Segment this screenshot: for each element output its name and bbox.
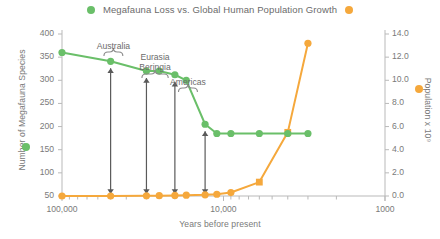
population-marker-3 [156,192,163,199]
annotation-arrow-1 [143,78,149,194]
y-tick-right-14.0: 14.0 [392,28,428,38]
megafauna-marker-11 [304,130,311,137]
annotation-label-2: Americas [148,77,228,87]
y-tick-right-8.0: 8.0 [392,97,428,107]
megafauna-marker-9 [256,130,263,137]
population-marker-0 [58,192,65,199]
population-marker-1 [107,192,114,199]
population-marker-8 [227,189,234,196]
y-tick-right-12.0: 12.0 [392,51,428,61]
population-marker-9 [256,179,263,186]
population-marker-5 [183,192,190,199]
megafauna-marker-0 [58,49,65,56]
y-tick-left-150: 150 [20,144,54,154]
y-tick-left-50: 50 [20,190,54,200]
y-tick-left-200: 200 [20,121,54,131]
annotation-label-1: EurasiaBeringia [115,52,195,72]
y-tick-left-100: 100 [20,167,54,177]
population-marker-11 [304,40,311,47]
population-marker-7 [213,191,220,198]
y-tick-right-0.0: 0.0 [392,190,428,200]
population-marker-4 [171,192,178,199]
y-tick-left-400: 400 [20,28,54,38]
annotation-arrow-2 [172,82,178,194]
y-tick-left-300: 300 [20,74,54,84]
annotation-arrow-3 [202,131,208,194]
x-tick-100,000: 100,000 [32,204,92,214]
megafauna-marker-10 [284,130,291,137]
chart-container: Megafauna Loss vs. Global Human Populati… [0,0,440,239]
y-tick-right-2.0: 2.0 [392,167,428,177]
y-tick-right-6.0: 6.0 [392,121,428,131]
x-tick-10,000: 10,000 [194,204,254,214]
megafauna-marker-8 [227,130,234,137]
x-tick-1000: 1000 [355,204,415,214]
y-tick-left-350: 350 [20,51,54,61]
megafauna-marker-6 [201,121,208,128]
y-tick-right-10.0: 10.0 [392,74,428,84]
y-tick-left-250: 250 [20,97,54,107]
megafauna-marker-1 [107,58,114,65]
population-marker-2 [143,192,150,199]
population-marker-6 [201,191,208,198]
annotation-label-0: Australia [73,41,153,51]
megafauna-marker-7 [213,130,220,137]
annotation-arrow-0 [107,68,113,194]
y-tick-right-4.0: 4.0 [392,144,428,154]
